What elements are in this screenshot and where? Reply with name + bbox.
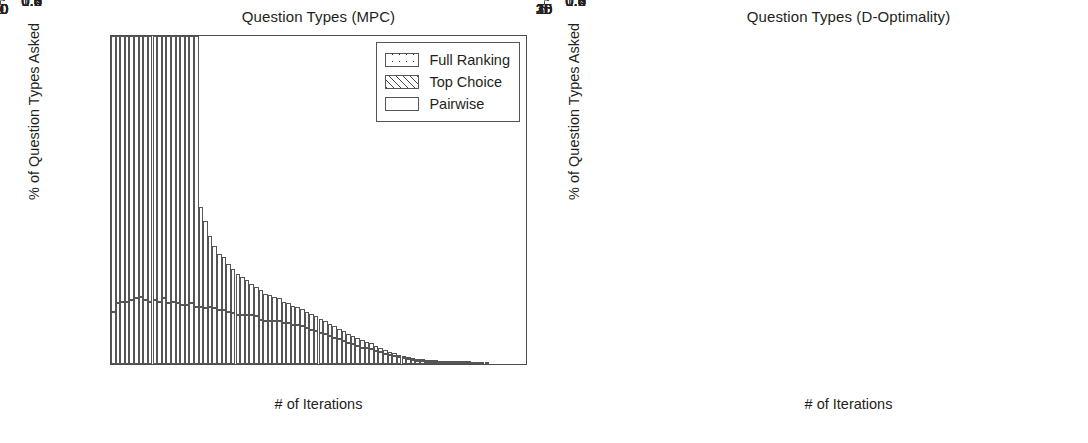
y-tick-right — [0, 0, 3, 1]
legend-swatch-dots-icon — [385, 53, 419, 67]
y-tick-right — [544, 0, 547, 1]
legend-item[interactable]: Full Ranking — [385, 49, 510, 71]
legend-label: Top Choice — [429, 75, 502, 90]
chart-title-d-optimality: Question Types (D-Optimality) — [650, 8, 1047, 25]
chart-title-mpc: Question Types (MPC) — [110, 8, 527, 25]
legend-label: Pairwise — [429, 97, 484, 112]
y-axis-label-mpc: % of Question Types Asked — [26, 23, 42, 200]
legend-item[interactable]: Pairwise — [385, 93, 510, 115]
x-axis-label-mpc: # of Iterations — [110, 396, 527, 412]
x-axis-label-d-optimality: # of Iterations — [650, 396, 1047, 412]
legend-label: Full Ranking — [429, 53, 510, 68]
chart-panel-mpc: Question Types (MPC) Full RankingTop Cho… — [0, 0, 544, 443]
chart-panel-d-optimality: Question Types (D-Optimality) Full Ranki… — [544, 0, 1088, 443]
plot-area-mpc: Full RankingTop ChoicePairwise — [110, 35, 527, 365]
y-tick-label: 1.0 — [544, 0, 586, 9]
y-axis-label-d-optimality: % of Question Types Asked — [566, 23, 582, 200]
bar-segment-pairwise — [485, 362, 490, 364]
legend-mpc: Full RankingTop ChoicePairwise — [376, 42, 520, 122]
legend-item[interactable]: Top Choice — [385, 71, 510, 93]
legend-swatch-blank-icon — [385, 97, 419, 111]
y-tick-label: 1.0 — [0, 0, 42, 9]
legend-swatch-hatch-icon — [385, 75, 419, 89]
figure-canvas: Question Types (MPC) Full RankingTop Cho… — [0, 0, 1088, 443]
